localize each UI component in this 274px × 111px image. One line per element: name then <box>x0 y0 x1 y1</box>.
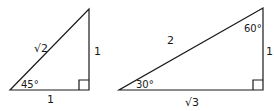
angle-label-45: 45° <box>21 79 39 90</box>
angle-label-30: 30° <box>136 79 154 90</box>
right-angle-marker-1 <box>79 80 89 90</box>
special-right-triangles-diagram: √2 1 1 45° 2 1 √3 30° 60° <box>0 0 274 111</box>
hypotenuse-label-2: 2 <box>167 34 174 47</box>
vertical-leg-label-2: 1 <box>266 45 273 58</box>
vertical-leg-label-1: 1 <box>94 45 101 58</box>
hypotenuse-label-1: √2 <box>34 42 48 55</box>
right-angle-marker-2 <box>253 80 263 90</box>
triangle-30-outline <box>119 8 263 90</box>
angle-label-60: 60° <box>244 23 262 34</box>
horizontal-leg-label-2: √3 <box>185 96 199 109</box>
triangle-45-45-90: √2 1 1 45° <box>10 9 101 106</box>
triangle-30-60-90: 2 1 √3 30° 60° <box>119 8 273 109</box>
horizontal-leg-label-1: 1 <box>47 93 54 106</box>
triangle-45-outline <box>10 9 89 90</box>
